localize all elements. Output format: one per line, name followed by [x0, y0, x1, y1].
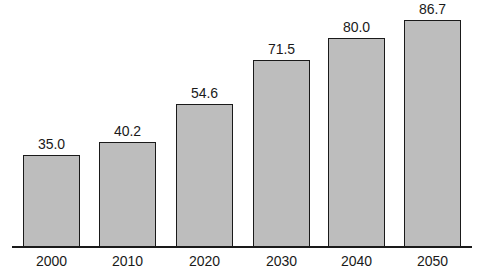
bar-chart: 35.0200040.2201054.6202071.5203080.02040…	[0, 0, 479, 280]
x-tick-label: 2020	[170, 253, 240, 269]
value-label: 71.5	[247, 41, 317, 57]
bar-2020	[176, 104, 233, 247]
x-axis-line	[12, 246, 472, 248]
value-label: 35.0	[17, 136, 87, 152]
x-tick-label: 2010	[93, 253, 163, 269]
value-label: 80.0	[322, 19, 392, 35]
bar-2050	[404, 20, 461, 247]
value-label: 86.7	[398, 1, 468, 17]
bar-2030	[253, 60, 310, 247]
bar-2040	[328, 38, 385, 247]
value-label: 54.6	[170, 85, 240, 101]
x-tick-label: 2000	[17, 253, 87, 269]
x-tick-label: 2030	[247, 253, 317, 269]
x-tick-label: 2050	[398, 253, 468, 269]
bar-2000	[23, 155, 80, 247]
x-tick-label: 2040	[322, 253, 392, 269]
value-label: 40.2	[93, 123, 163, 139]
bar-2010	[99, 142, 156, 247]
